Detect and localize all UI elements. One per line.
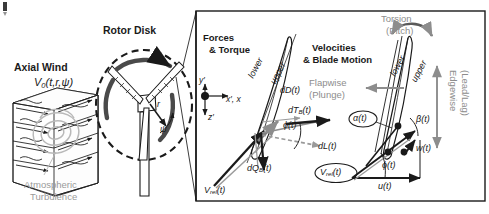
torque-args: (t) [263, 163, 272, 173]
angle-of-attack-label: α(t) [353, 113, 367, 123]
axial-wind-title: Axial Wind [14, 62, 68, 74]
corner-mark [3, 2, 7, 16]
thrust-force-label: dTB(t) [288, 105, 311, 116]
forces-title-line1: Forces [203, 33, 234, 44]
axis-label-x-prime-x: x′, x [226, 95, 241, 105]
forces-inflow-angle-label: ϕ(t) [283, 120, 297, 130]
wind-turbine-aerodynamics-figure: Axial Wind V0(t,r,ψ) Atmospheric Turbule… [0, 0, 489, 214]
velocities-title-line1: Velocities [312, 43, 356, 54]
forces-vrel-subscript: rel [210, 188, 217, 195]
drag-force-label: dD(t) [280, 85, 300, 95]
forces-vrel-args: (t) [217, 185, 226, 195]
atmospheric-turbulence-label-line2: Turbulence [30, 192, 77, 203]
velocities-inflow-angle-label: ϕ(t) [382, 160, 396, 170]
atmospheric-turbulence-label-line1: Atmospheric [24, 180, 77, 191]
rotor-disk-title: Rotor Disk [103, 25, 156, 37]
azimuth-label: ψ [160, 124, 167, 134]
axis-label-z-prime: z′ [208, 113, 214, 123]
rotor-disk-graphic [96, 50, 192, 196]
axis-label-y-prime: y′ [199, 76, 205, 86]
forces-title-line2: & Torque [209, 45, 250, 56]
axial-wind-formula: V0(t,r,ψ) [34, 76, 73, 90]
velocities-vrel-subscript: rel [326, 170, 333, 177]
velocities-relative-velocity-label: Vrel(t) [320, 167, 341, 178]
velocities-title-line2: & Blade Motion [303, 55, 372, 66]
velocities-vrel-args: (t) [333, 167, 342, 177]
radius-label: r [157, 99, 160, 109]
flapwise-label-line2: (Plunge) [309, 90, 345, 101]
torsion-label-line1: Torsion [381, 14, 412, 25]
torque-label: dQB(t) [247, 163, 272, 174]
thrust-symbol: dT [288, 105, 299, 115]
forces-chord-line [247, 34, 296, 163]
edgewise-label-line2: (Lead/Lag) [459, 70, 470, 116]
flap-angle-label: β(t) [416, 114, 430, 124]
thrust-args: (t) [303, 105, 312, 115]
coordinate-triad [202, 84, 228, 115]
lift-force-vector [262, 135, 320, 146]
normal-velocity-label: w(t) [416, 143, 431, 153]
edgewise-label-line1: Edgewise [447, 70, 458, 111]
tangential-velocity-label: u(t) [378, 181, 392, 191]
flapwise-label-line1: Flapwise [309, 78, 347, 89]
forces-relative-velocity-label: Vrel(t) [204, 185, 225, 196]
axial-wind-args: (t,r,ψ) [46, 76, 74, 88]
torque-symbol: dQ [247, 163, 259, 173]
lift-force-label: dL(t) [318, 141, 337, 151]
torsion-label-line2: (Pitch) [386, 26, 413, 37]
